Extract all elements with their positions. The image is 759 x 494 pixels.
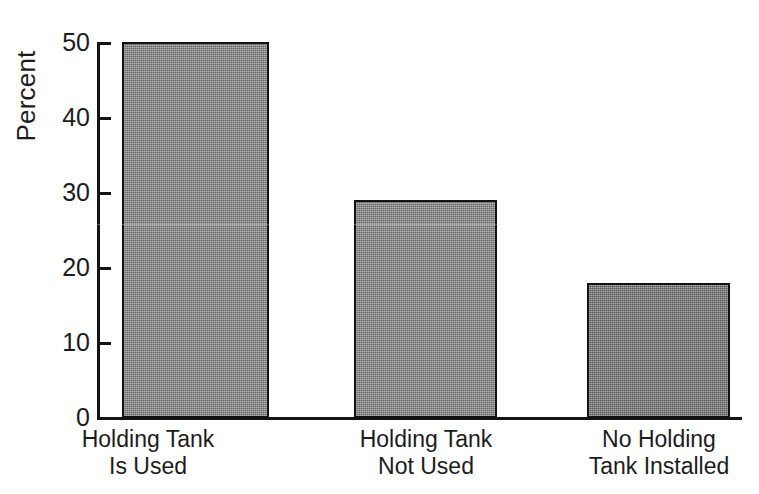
plot-area — [97, 42, 742, 418]
bar-chart: Percent 50 40 30 20 10 0 Holding Tank Is… — [0, 0, 759, 494]
y-tick-label-10: 10 — [36, 330, 90, 355]
y-tick-label-50: 50 — [36, 30, 90, 55]
x-category-label-line1: Holding Tank — [326, 426, 526, 453]
x-category-label-line1: No Holding — [559, 426, 759, 453]
x-category-label-holding-tank-not-used: Holding Tank Not Used — [326, 426, 526, 480]
y-axis-tick-labels: 50 40 30 20 10 0 — [36, 0, 90, 494]
y-tick-label-20: 20 — [36, 255, 90, 280]
bar-holding-tank-not-used[interactable] — [354, 200, 497, 418]
x-category-label-line1: Holding Tank — [48, 426, 248, 453]
x-category-label-line2: Tank Installed — [559, 453, 759, 480]
x-category-label-line2: Not Used — [326, 453, 526, 480]
x-category-label-line2: Is Used — [48, 453, 248, 480]
y-tick-label-40: 40 — [36, 105, 90, 130]
x-category-label-holding-tank-is-used: Holding Tank Is Used — [48, 426, 248, 480]
bar-no-holding-tank-installed[interactable] — [587, 283, 730, 418]
x-category-label-no-holding-tank-installed: No Holding Tank Installed — [559, 426, 759, 480]
y-tick-label-30: 30 — [36, 180, 90, 205]
bar-holding-tank-is-used[interactable] — [122, 42, 269, 418]
